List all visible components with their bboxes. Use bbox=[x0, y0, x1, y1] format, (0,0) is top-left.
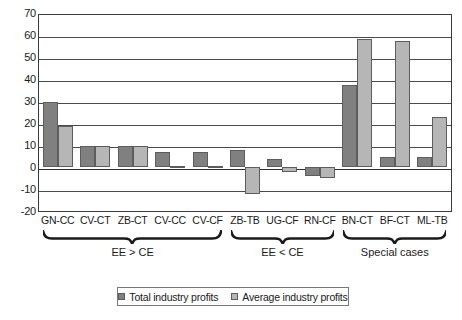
legend-label: Average industry profits bbox=[242, 291, 347, 303]
bar-cv-ct-total bbox=[80, 146, 95, 168]
bar-rn-cf-average bbox=[320, 167, 335, 178]
bar-cv-cf-average bbox=[208, 166, 223, 168]
y-axis-tick-label: 30 bbox=[2, 96, 36, 107]
y-axis-tick-label: 0 bbox=[2, 162, 36, 173]
bars-layer bbox=[39, 15, 451, 211]
bar-ml-tb-average bbox=[432, 117, 447, 167]
bar-gn-cc-average bbox=[58, 126, 73, 167]
x-axis-tick-label: ML-TB bbox=[410, 214, 455, 227]
group-bracket: EE < CE bbox=[231, 230, 334, 244]
group-bracket: EE > CE bbox=[43, 230, 221, 244]
y-axis-tick-label: 60 bbox=[2, 30, 36, 41]
bar-zb-tb-average bbox=[245, 167, 260, 193]
bar-rn-cf-total bbox=[305, 167, 320, 176]
group-bracket: Special cases bbox=[343, 230, 446, 244]
bar-bn-ct-total bbox=[342, 85, 357, 168]
bar-bf-ct-total bbox=[380, 157, 395, 168]
bracket-icon bbox=[43, 230, 221, 244]
legend-label: Total industry profits bbox=[129, 291, 218, 303]
bar-zb-tb-total bbox=[230, 150, 245, 167]
chart-legend: Total industry profitsAverage industry p… bbox=[117, 287, 349, 306]
bar-chart: 706050403020100-10-20 GN-CCCV-CTZB-CTCV-… bbox=[0, 0, 462, 320]
bar-cv-cc-average bbox=[170, 166, 185, 168]
legend-swatch-icon bbox=[231, 293, 238, 300]
legend-swatch-icon bbox=[118, 293, 125, 300]
group-label: EE > CE bbox=[43, 246, 221, 259]
bar-zb-ct-total bbox=[118, 146, 133, 168]
bar-cv-ct-average bbox=[95, 146, 110, 168]
bar-zb-ct-average bbox=[133, 146, 148, 168]
bar-bf-ct-average bbox=[395, 41, 410, 167]
group-label: EE < CE bbox=[231, 246, 334, 259]
group-brackets: EE > CEEE < CESpecial cases bbox=[38, 230, 452, 270]
bar-gn-cc-total bbox=[43, 102, 58, 167]
bar-ug-cf-average bbox=[282, 167, 297, 171]
y-axis-tick-label: -20 bbox=[2, 206, 36, 217]
y-axis-tick-label: 10 bbox=[2, 140, 36, 151]
bar-bn-ct-average bbox=[357, 39, 372, 167]
bar-ml-tb-total bbox=[417, 157, 432, 168]
bracket-icon bbox=[343, 230, 446, 244]
bracket-icon bbox=[231, 230, 334, 244]
y-axis-tick-label: 40 bbox=[2, 74, 36, 85]
bar-ug-cf-total bbox=[267, 159, 282, 168]
y-axis-tick-label: 70 bbox=[2, 8, 36, 19]
y-axis-tick-label: -10 bbox=[2, 184, 36, 195]
legend-item-total[interactable]: Total industry profits bbox=[118, 291, 218, 303]
x-axis-labels: GN-CCCV-CTZB-CTCV-CCCV-CFZB-TBUG-CFRN-CF… bbox=[38, 214, 452, 230]
bar-cv-cc-total bbox=[155, 152, 170, 167]
group-label: Special cases bbox=[343, 246, 446, 259]
y-axis-tick-label: 20 bbox=[2, 118, 36, 129]
y-axis-tick-label: 50 bbox=[2, 52, 36, 63]
legend-item-average[interactable]: Average industry profits bbox=[231, 291, 347, 303]
y-axis: 706050403020100-10-20 bbox=[0, 0, 36, 320]
bar-cv-cf-total bbox=[193, 152, 208, 167]
